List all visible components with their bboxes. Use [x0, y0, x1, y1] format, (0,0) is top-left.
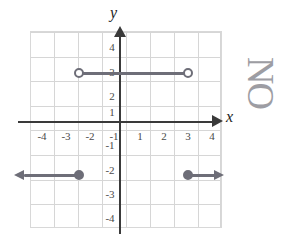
- open-circle-left-endpoint: [74, 68, 84, 78]
- y-axis-arrow-icon: [114, 26, 126, 37]
- left-ray-segment: [24, 174, 81, 177]
- x-tick-label--3: -3: [58, 130, 74, 142]
- closed-dot-right-ray-endpoint: [183, 170, 193, 180]
- x-tick-label--2: -2: [82, 130, 98, 142]
- y-tick-label-2: 2: [104, 90, 120, 102]
- x-tick-label-1: 1: [132, 130, 148, 142]
- x-tick-label-2: 2: [156, 130, 172, 142]
- left-ray-arrow-icon: [14, 170, 24, 180]
- x-tick-label-4: 4: [204, 130, 220, 142]
- x-tick-label-3: 3: [180, 130, 196, 142]
- y-axis-label: y: [110, 4, 117, 22]
- graph-figure: x y -4 -3 -2 -1 1 2 3 4 4 3 2 1 -1 -2 -3…: [0, 0, 288, 244]
- x-axis-label: x: [226, 108, 233, 126]
- closed-dot-left-ray-endpoint: [74, 170, 84, 180]
- handwritten-annotation: NO: [215, 57, 288, 103]
- y-tick-label-1: 1: [104, 106, 120, 118]
- open-circle-right-endpoint: [183, 68, 193, 78]
- y-tick-label--3: -3: [102, 188, 118, 200]
- right-ray-arrow-icon: [214, 170, 224, 180]
- y-tick-label-4: 4: [104, 41, 120, 53]
- y-tick-label--2: -2: [102, 164, 118, 176]
- x-axis: [18, 121, 214, 123]
- y-tick-label--4: -4: [102, 212, 118, 224]
- y-tick-label--1: -1: [102, 139, 118, 151]
- middle-segment: [78, 72, 188, 75]
- x-tick-label--4: -4: [34, 130, 50, 142]
- x-axis-arrow-icon: [212, 115, 223, 127]
